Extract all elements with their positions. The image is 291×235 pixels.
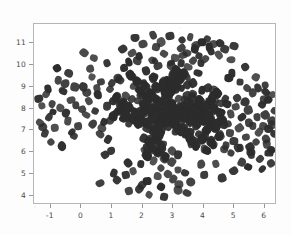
y-axis-tick xyxy=(29,151,33,152)
scatter-point xyxy=(124,186,134,196)
scatter-point xyxy=(82,88,93,98)
scatter-point xyxy=(44,83,53,93)
scatter-point xyxy=(89,53,99,62)
scatter-point xyxy=(212,160,221,169)
scatter-point xyxy=(236,78,243,85)
scatter-point xyxy=(107,147,116,156)
scatter-point xyxy=(60,79,69,88)
scatter-point xyxy=(233,122,245,134)
scatter-point xyxy=(226,149,235,158)
scatter-point xyxy=(165,31,175,41)
scatter-point xyxy=(137,160,146,169)
scatter-point xyxy=(265,158,276,169)
scatter-point xyxy=(225,128,233,136)
scatter-point xyxy=(242,133,251,141)
scatter-point xyxy=(200,171,209,179)
scatter-point xyxy=(121,171,130,181)
x-axis-tick-label: 6 xyxy=(261,211,266,220)
y-axis-tick-label: 11 xyxy=(9,37,26,46)
scatter-point xyxy=(242,104,253,115)
x-axis-tick-label: 5 xyxy=(231,211,236,220)
scatter-point xyxy=(103,59,112,69)
scatter-point xyxy=(154,171,163,180)
scatter-point xyxy=(231,103,240,111)
scatter-point xyxy=(128,115,136,123)
scatter-point xyxy=(52,63,63,74)
scatter-point xyxy=(150,114,158,123)
scatter-point xyxy=(178,36,187,45)
y-axis-tick xyxy=(29,42,33,43)
scatter-point xyxy=(51,124,59,132)
scatter-point xyxy=(63,68,75,80)
scatter-point xyxy=(114,75,126,87)
scatter-point xyxy=(63,116,72,126)
x-axis-tick xyxy=(80,204,81,208)
scatter-point xyxy=(228,165,240,177)
x-axis-tick xyxy=(111,204,112,208)
scatter-point xyxy=(185,176,198,189)
y-axis-tick-label: 10 xyxy=(9,59,26,68)
scatter-point xyxy=(159,192,169,202)
scatter-point xyxy=(227,57,236,64)
scatter-point xyxy=(90,106,100,115)
scatter-point xyxy=(193,68,204,78)
scatter-point xyxy=(174,180,183,188)
y-axis-tick xyxy=(29,64,33,65)
scatter-point xyxy=(85,65,95,75)
x-axis-tick-label: 2 xyxy=(139,211,144,220)
y-axis-tick xyxy=(29,195,33,196)
scatter-point xyxy=(158,48,169,59)
scatter-point xyxy=(197,59,204,67)
scatter-point xyxy=(38,102,46,110)
y-axis-tick xyxy=(29,86,33,87)
scatter-point xyxy=(249,122,257,130)
scatter-point xyxy=(229,41,240,51)
scatter-point xyxy=(197,159,205,168)
x-axis-tick-label: 4 xyxy=(200,211,205,220)
scatter-point xyxy=(88,72,97,81)
scatter-point xyxy=(78,46,90,58)
y-axis-tick xyxy=(29,173,33,174)
x-axis-tick xyxy=(50,204,51,208)
scatter-point xyxy=(216,172,228,184)
scatter-point xyxy=(240,61,251,72)
scatter-point xyxy=(159,112,167,119)
scatter-point xyxy=(155,182,166,193)
scatter-point xyxy=(243,162,253,172)
scatter-point xyxy=(265,150,274,158)
x-axis-tick xyxy=(233,204,234,208)
scatter-point xyxy=(217,114,227,124)
plot-frame xyxy=(33,23,276,204)
scatter-points-layer xyxy=(34,24,275,203)
x-axis-tick-label: 1 xyxy=(108,211,113,220)
x-axis-tick xyxy=(172,204,173,208)
y-axis-tick xyxy=(29,129,33,130)
x-axis-tick-label: 3 xyxy=(170,211,175,220)
y-axis-tick-label: 4 xyxy=(9,191,26,200)
x-axis-tick xyxy=(203,204,204,208)
scatter-point xyxy=(269,106,276,116)
scatter-point xyxy=(173,149,183,160)
scatter-point xyxy=(94,178,105,188)
scatter-point xyxy=(206,43,213,52)
y-axis-tick-label: 9 xyxy=(9,81,26,90)
y-axis-tick-label: 7 xyxy=(9,125,26,134)
x-axis-tick xyxy=(264,204,265,208)
y-axis-tick xyxy=(29,108,33,109)
scatter-point xyxy=(129,166,138,175)
scatter-point xyxy=(186,33,194,42)
x-axis-tick xyxy=(142,204,143,208)
x-axis-tick-label: -1 xyxy=(46,211,54,220)
x-axis-tick-label: 0 xyxy=(78,211,83,220)
scatter-point xyxy=(55,139,68,152)
y-axis-tick-label: 6 xyxy=(9,147,26,156)
scatter-plot-figure: -101234564567891011 xyxy=(0,0,291,235)
scatter-point xyxy=(205,111,213,118)
y-axis-tick-label: 5 xyxy=(9,169,26,178)
scatter-point xyxy=(228,69,235,78)
scatter-point xyxy=(181,188,192,198)
scatter-point xyxy=(250,71,261,81)
scatter-point xyxy=(46,138,56,148)
scatter-point xyxy=(256,164,266,174)
scatter-point xyxy=(144,190,154,200)
